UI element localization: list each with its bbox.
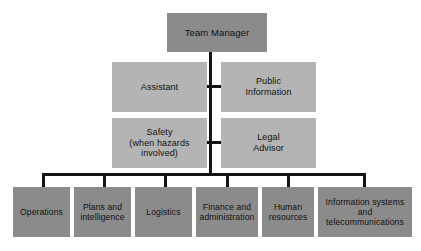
node-finance-administration-label: Finance and administration: [197, 202, 258, 222]
node-logistics-label: Logistics: [143, 207, 183, 217]
connector-drop-operations: [42, 173, 45, 187]
node-finance-administration[interactable]: Finance and administration: [196, 187, 258, 237]
node-information-systems-label: Information systems and telecommunicatio…: [323, 197, 408, 227]
node-human-resources-label: Human resources: [266, 202, 311, 222]
node-legal-advisor[interactable]: Legal Advisor: [221, 118, 316, 168]
connector-main-spine: [209, 52, 212, 175]
node-assistant[interactable]: Assistant: [112, 62, 207, 112]
node-public-information-label: Public Information: [242, 76, 294, 97]
node-human-resources[interactable]: Human resources: [262, 187, 314, 237]
node-plans-intelligence[interactable]: Plans and intelligence: [74, 187, 131, 237]
connector-drop-human-resources: [287, 173, 290, 187]
connector-drop-plans-intelligence: [103, 173, 106, 187]
node-logistics[interactable]: Logistics: [135, 187, 192, 237]
org-chart-canvas: Team Manager Assistant Public Informatio…: [0, 0, 421, 251]
node-team-manager-label: Team Manager: [182, 27, 253, 38]
node-legal-advisor-label: Legal Advisor: [250, 132, 287, 153]
node-information-systems[interactable]: Information systems and telecommunicatio…: [318, 187, 412, 237]
node-team-manager[interactable]: Team Manager: [167, 13, 267, 52]
connector-sections-bus: [42, 173, 366, 176]
connector-drop-logistics: [164, 173, 167, 187]
node-safety-label: Safety (when hazards involved): [126, 127, 192, 159]
node-plans-intelligence-label: Plans and intelligence: [77, 202, 127, 222]
connector-drop-finance-administration: [226, 173, 229, 187]
node-operations-label: Operations: [17, 207, 66, 217]
node-public-information[interactable]: Public Information: [221, 62, 316, 112]
node-safety[interactable]: Safety (when hazards involved): [112, 118, 207, 168]
connector-drop-information-systems: [363, 173, 366, 187]
node-operations[interactable]: Operations: [13, 187, 70, 237]
node-assistant-label: Assistant: [138, 82, 181, 93]
